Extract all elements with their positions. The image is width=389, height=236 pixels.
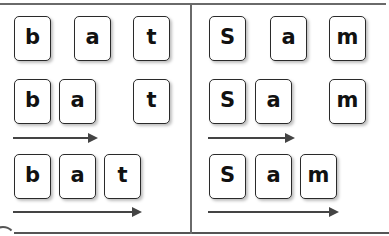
blend-arrow <box>13 137 96 139</box>
tile-letter: a <box>281 27 295 48</box>
letter-tile: a <box>59 79 96 124</box>
tile-letter: S <box>220 90 235 111</box>
panel-divider <box>190 4 192 234</box>
letter-tile: m <box>329 79 366 124</box>
letter-tile: m <box>329 16 366 61</box>
tile-letter: m <box>308 165 330 186</box>
corner-curve <box>0 226 16 236</box>
letter-tile: a <box>74 16 111 61</box>
tile-letter: b <box>25 90 40 111</box>
letter-tile: b <box>14 154 51 199</box>
tile-letter: a <box>70 90 84 111</box>
tile-letter: b <box>25 165 40 186</box>
letter-tile: t <box>104 154 141 199</box>
letter-tile: S <box>209 79 246 124</box>
tile-letter: a <box>266 165 280 186</box>
letter-tile: b <box>14 79 51 124</box>
letter-tile: a <box>255 154 292 199</box>
tile-letter: m <box>337 90 359 111</box>
tile-letter: m <box>337 27 359 48</box>
letter-tile: a <box>59 154 96 199</box>
tile-letter: S <box>220 165 235 186</box>
letter-tile: a <box>255 79 292 124</box>
letter-tile: S <box>209 16 246 61</box>
letter-tile: a <box>270 16 307 61</box>
letter-tile: S <box>209 154 246 199</box>
letter-tile: t <box>133 79 170 124</box>
letter-tile: t <box>133 16 170 61</box>
tile-letter: a <box>70 165 84 186</box>
blend-arrow <box>13 211 140 213</box>
tile-letter: a <box>266 90 280 111</box>
blend-arrow <box>208 211 337 213</box>
frame-top-border <box>0 3 386 5</box>
tile-letter: b <box>25 27 40 48</box>
tile-letter: S <box>220 27 235 48</box>
blend-arrow <box>208 137 293 139</box>
letter-tile: m <box>300 154 337 199</box>
tile-letter: a <box>85 27 99 48</box>
tile-letter: t <box>146 90 156 111</box>
tile-letter: t <box>117 165 127 186</box>
tile-letter: t <box>146 27 156 48</box>
frame-bottom-border <box>14 232 389 234</box>
letter-tile: b <box>14 16 51 61</box>
